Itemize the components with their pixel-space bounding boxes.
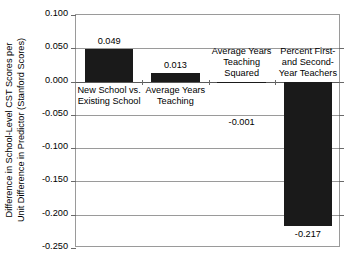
y-axis-tick-label: -0.150 xyxy=(24,176,68,185)
category-label-line: Average Years xyxy=(143,85,207,96)
bar-value-label: 0.013 xyxy=(164,61,187,70)
y-axis-tick xyxy=(71,148,76,149)
y-axis-tick-right xyxy=(339,82,344,83)
y-axis-tick-right xyxy=(339,148,344,149)
y-axis-tick-label: -0.200 xyxy=(24,209,68,218)
y-axis-tick-right xyxy=(339,215,344,216)
x-axis-category-label: Percent First-and Second-Year Teachers xyxy=(276,46,340,79)
bar xyxy=(217,82,265,83)
category-label-line: Average Years xyxy=(210,46,274,57)
category-label-line: New School vs. xyxy=(77,85,141,96)
y-axis-tick xyxy=(71,248,76,249)
y-axis-tick-right xyxy=(339,115,344,116)
bar-value-label: -0.217 xyxy=(295,230,321,239)
y-axis-tick xyxy=(71,215,76,216)
y-axis-tick-right xyxy=(339,181,344,182)
y-axis-tick-label: -0.050 xyxy=(24,109,68,118)
y-axis-tick xyxy=(71,82,76,83)
category-label-line: Existing School xyxy=(77,96,141,107)
category-label-line: Teaching xyxy=(210,57,274,68)
bar-value-label: -0.001 xyxy=(229,118,255,127)
category-label-line: and Second- xyxy=(276,57,340,68)
y-axis-tick xyxy=(71,15,76,16)
plot-area: 0.049New School vs.Existing School0.013A… xyxy=(75,14,340,247)
y-axis-tick xyxy=(71,115,76,116)
x-axis-category-label: New School vs.Existing School xyxy=(77,85,141,107)
bar-chart-figure: Difference in School-Level CST Scores pe… xyxy=(0,0,356,259)
bar xyxy=(284,82,332,226)
bar-value-label: 0.049 xyxy=(98,37,121,46)
x-axis-category-label: Average YearsTeachingSquared xyxy=(210,46,274,79)
y-axis-tick-labels: 0.1000.0500.000-0.050-0.100-0.150-0.200-… xyxy=(24,0,68,259)
y-axis-tick-label: 0.100 xyxy=(24,9,68,18)
y-axis-tick-label: 0.050 xyxy=(24,43,68,52)
category-label-line: Percent First- xyxy=(276,46,340,57)
x-axis-tick xyxy=(209,80,210,85)
y-axis-title-line1: Difference in School-Level CST Scores pe… xyxy=(4,42,14,217)
bar xyxy=(151,73,199,82)
category-label-line: Squared xyxy=(210,68,274,79)
x-axis-category-label: Average YearsTeaching xyxy=(143,85,207,107)
x-axis-tick xyxy=(275,80,276,85)
y-axis-tick-label: 0.000 xyxy=(24,76,68,85)
bar xyxy=(85,49,133,82)
y-axis-tick-label: -0.100 xyxy=(24,143,68,152)
y-axis-tick xyxy=(71,181,76,182)
category-label-line: Year Teachers xyxy=(276,68,340,79)
category-label-line: Teaching xyxy=(143,96,207,107)
y-axis-tick-label: -0.250 xyxy=(24,242,68,251)
y-axis-tick xyxy=(71,48,76,49)
